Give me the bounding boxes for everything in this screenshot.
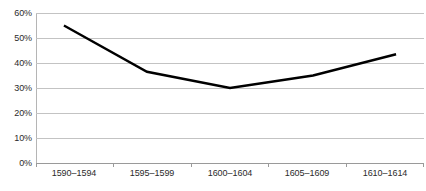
y-axis-tick-label: 10% <box>0 134 32 143</box>
y-axis-tick-labels: 60% 50% 40% 30% 20% 10% 0% <box>0 0 32 191</box>
x-axis-tick <box>113 163 114 167</box>
x-axis-category-label: 1600–1604 <box>208 168 253 179</box>
series-line <box>36 13 424 163</box>
y-axis-tick-label: 20% <box>0 109 32 118</box>
line-chart: 60% 50% 40% 30% 20% 10% 0% 1590–1594 159… <box>0 0 426 191</box>
x-axis-tick <box>191 163 192 167</box>
y-axis-tick-label: 50% <box>0 34 32 43</box>
plot-area <box>36 13 424 163</box>
x-axis-category-label: 1595–1599 <box>130 168 175 179</box>
y-axis-tick-label: 40% <box>0 59 32 68</box>
y-axis-tick-label: 0% <box>0 159 32 168</box>
x-axis-category-labels: 1590–1594 1595–1599 1600–1604 1605–1609 … <box>36 168 424 184</box>
x-axis-tick <box>346 163 347 167</box>
x-axis-category-label: 1590–1594 <box>52 168 97 179</box>
y-axis-tick-label: 30% <box>0 84 32 93</box>
x-axis-category-label: 1610–1614 <box>363 168 408 179</box>
x-axis-tick <box>268 163 269 167</box>
x-axis-tick <box>423 163 424 167</box>
x-axis-tick <box>36 163 37 167</box>
x-axis-category-label: 1605–1609 <box>285 168 330 179</box>
y-axis-tick-label: 60% <box>0 9 32 18</box>
x-axis-line <box>36 163 424 164</box>
